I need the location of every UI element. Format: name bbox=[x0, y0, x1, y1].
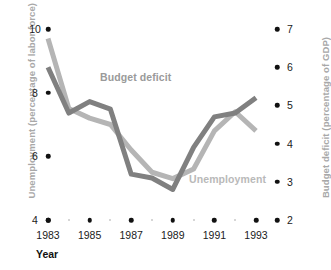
y-right-tick-label-2: 2 bbox=[287, 214, 293, 226]
x-tick-dot-1987 bbox=[129, 218, 134, 223]
x-minor-tick-dot-1988 bbox=[151, 219, 153, 221]
y-right-tick-dot-7 bbox=[275, 27, 280, 32]
x-minor-tick-dot-1990 bbox=[193, 219, 195, 221]
y-right-tick-dot-3 bbox=[275, 180, 280, 185]
y-right-tick-dot-4 bbox=[275, 141, 280, 146]
x-tick-dot-1991 bbox=[212, 218, 217, 223]
y-left-tick-dot-10 bbox=[46, 27, 51, 32]
y-right-tick-label-4: 4 bbox=[287, 138, 293, 150]
x-minor-tick-dot-1986 bbox=[109, 219, 111, 221]
y-right-tick-label-6: 6 bbox=[287, 61, 293, 73]
x-tick-label-1985: 1985 bbox=[78, 229, 101, 241]
x-axis-title: Year bbox=[36, 248, 58, 260]
x-minor-tick-dot-1984 bbox=[68, 219, 70, 221]
y-right-tick-label-3: 3 bbox=[287, 176, 293, 188]
x-tick-label-1991: 1991 bbox=[203, 229, 226, 241]
x-tick-dot-1989 bbox=[171, 218, 176, 223]
x-tick-label-1983: 1983 bbox=[36, 229, 59, 241]
y-right-tick-dot-2 bbox=[275, 218, 280, 223]
y-left-tick-dot-6 bbox=[46, 154, 51, 159]
x-tick-label-1987: 1987 bbox=[120, 229, 143, 241]
x-tick-label-1993: 1993 bbox=[244, 229, 267, 241]
y-left-tick-label-8: 8 bbox=[32, 87, 38, 99]
y-right-tick-dot-6 bbox=[275, 65, 280, 70]
y-left-tick-label-6: 6 bbox=[32, 150, 38, 162]
y-right-tick-label-7: 7 bbox=[287, 23, 293, 35]
y-left-tick-label-4: 4 bbox=[32, 214, 38, 226]
y-left-tick-dot-8 bbox=[46, 90, 51, 95]
x-tick-dot-1993 bbox=[254, 218, 259, 223]
x-minor-tick-dot-1992 bbox=[234, 219, 236, 221]
x-tick-dot-1983 bbox=[46, 218, 51, 223]
x-tick-dot-1985 bbox=[87, 218, 92, 223]
series-label-unemployment: Unemployment bbox=[189, 173, 266, 185]
x-tick-label-1989: 1989 bbox=[161, 229, 184, 241]
y-right-tick-dot-5 bbox=[275, 103, 280, 108]
y-left-tick-label-10: 10 bbox=[29, 23, 41, 35]
series-label-budget-deficit: Budget deficit bbox=[100, 71, 171, 83]
y-right-tick-label-5: 5 bbox=[287, 99, 293, 111]
